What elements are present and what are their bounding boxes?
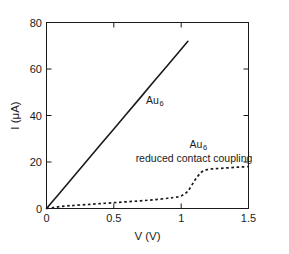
annotation-au6-solid-subscript: 6 <box>160 99 164 108</box>
annotation-au6-reduced-subscript: 6 <box>203 143 207 152</box>
y-tick-labels: 0 20 40 60 80 <box>30 17 42 215</box>
figure-container: 0 20 40 60 80 0 0.5 1 1.5 V (V) I (μA) A… <box>0 0 289 254</box>
x-axis-title: V (V) <box>134 230 160 242</box>
y-tick-label-60: 60 <box>30 63 42 75</box>
plot-frame <box>47 23 249 209</box>
x-tick-label-1: 1 <box>178 212 184 224</box>
iv-curve-chart: 0 20 40 60 80 0 0.5 1 1.5 V (V) I (μA) A… <box>0 0 289 254</box>
x-tick-label-0: 0 <box>43 212 49 224</box>
y-tick-label-80: 80 <box>30 17 42 29</box>
x-tick-label-1-5: 1.5 <box>241 212 256 224</box>
y-tick-label-40: 40 <box>30 110 42 122</box>
annotation-reduced-contact-coupling: reduced contact coupling <box>136 152 253 164</box>
annotation-au6-solid-text: Au <box>146 94 159 106</box>
annotation-au6-reduced-text: Au <box>190 138 203 150</box>
x-tick-labels: 0 0.5 1 1.5 <box>43 212 256 224</box>
y-tick-label-20: 20 <box>30 156 42 168</box>
x-tick-label-0-5: 0.5 <box>106 212 121 224</box>
y-axis-title: I (μA) <box>9 101 21 130</box>
y-tick-label-0: 0 <box>36 203 42 215</box>
